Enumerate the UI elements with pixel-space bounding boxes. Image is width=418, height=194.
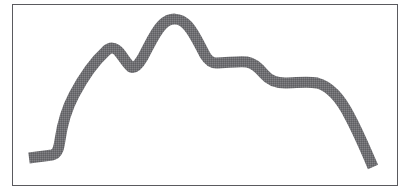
line-drawing-canvas <box>0 0 418 194</box>
figure-root: Hand-drawn terrain profile outline <box>0 0 418 194</box>
hill-silhouette-path <box>29 19 373 167</box>
